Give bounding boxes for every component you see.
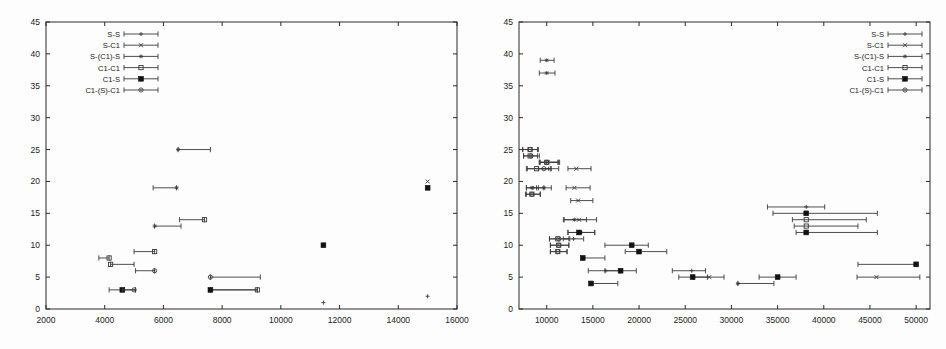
legend-item-s-s[interactable]: S-S [107,30,158,39]
series-s-c1-s [153,147,211,229]
data-point-star-marker [572,218,576,222]
y-axis: 051015202530354045 [504,17,930,314]
data-point-plus-marker [804,205,808,209]
legend-label: C1-C1 [862,64,884,73]
data-point-filled-square-marker [589,281,594,286]
y-tick-label: 25 [31,145,41,155]
y-tick-label: 40 [504,49,514,59]
data-point-star-marker [736,281,740,285]
data-point-filled-square-marker [914,262,919,267]
scatter-plot-right: 1000015000200002500030000350004000045000… [473,0,946,349]
data-point-filled-square-marker [629,243,634,248]
y-tick-label: 10 [31,240,41,250]
legend-item-s-c1-s[interactable]: S-(C1)-S [854,52,922,61]
x-tick-label: 10000 [535,315,559,325]
legend-label: C1-(S)-C1 [849,86,884,95]
x-tick-label: 8000 [213,315,232,325]
y-tick-label: 30 [31,113,41,123]
legend-item-s-c1-s[interactable]: S-(C1)-S [90,52,158,61]
legend-item-c1-s-c1[interactable]: C1-(S)-C1 [85,86,158,95]
data-point-filled-square-marker [637,249,642,254]
legend-key-plus-marker [903,32,907,36]
legend: S-SS-C1S-(C1)-SC1-C1C1-SC1-(S)-C1 [849,30,922,95]
legend-label: S-C1 [867,41,884,50]
series-s-s [321,294,429,304]
series-c1-c1 [99,217,260,292]
x-tick-label: 12000 [328,315,352,325]
y-axis: 051015202530354045 [31,17,457,314]
data-point-plus-marker [321,301,325,305]
legend-key-star-marker [903,54,907,58]
y-tick-label: 0 [35,304,40,314]
y-tick-label: 15 [504,208,514,218]
data-point-filled-square-marker [425,185,430,190]
x-tick-label: 10000 [269,315,293,325]
y-tick-label: 15 [31,208,41,218]
data-point-cross-marker [426,179,430,183]
data-layer [99,147,430,305]
legend-key-filled-square-marker [903,76,908,81]
x-tick-label: 14000 [386,315,410,325]
data-point-star-marker [545,58,549,62]
y-tick-label: 45 [31,17,41,27]
data-point-filled-square-marker [580,256,585,261]
chart-panel-right: 1000015000200002500030000350004000045000… [473,0,946,349]
data-point-filled-square-marker [804,230,809,235]
x-tick-label: 4000 [95,315,114,325]
x-tick-label: 15000 [581,315,605,325]
chart-panel-left: 2000400060008000100001200014000160000510… [0,0,473,349]
series-c1-s-c1 [523,147,569,254]
y-tick-label: 40 [31,49,41,59]
x-tick-label: 25000 [673,315,697,325]
series-c1-s-c1 [122,268,260,292]
data-point-filled-square-marker [321,243,326,248]
y-tick-label: 0 [508,304,513,314]
legend-label: S-S [871,30,884,39]
legend-item-s-s[interactable]: S-S [871,30,922,39]
data-point-star-marker [530,186,534,190]
data-point-plus-marker [571,237,575,241]
legend-item-c1-s[interactable]: C1-S [103,75,158,84]
legend-key-plus-marker [139,32,143,36]
x-tick-label: 6000 [154,315,173,325]
legend-label: C1-(S)-C1 [85,86,120,95]
legend-item-s-c1[interactable]: S-C1 [103,41,158,50]
x-tick-label: 20000 [627,315,651,325]
y-tick-label: 10 [504,240,514,250]
y-tick-label: 20 [31,176,41,186]
data-point-plus-marker [690,269,694,273]
scatter-plot-left: 2000400060008000100001200014000160000510… [0,0,473,349]
y-tick-label: 35 [504,81,514,91]
y-tick-label: 5 [35,272,40,282]
x-tick-label: 16000 [445,315,469,325]
legend-label: C1-S [867,75,884,84]
y-tick-label: 20 [504,176,514,186]
x-tick-label: 2000 [37,315,56,325]
legend-label: C1-C1 [98,64,120,73]
legend-item-c1-c1[interactable]: C1-C1 [98,64,158,73]
x-tick-label: 35000 [766,315,790,325]
figure-container: 2000400060008000100001200014000160000510… [0,0,946,349]
data-point-star-marker [542,186,546,190]
data-point-star-marker [545,71,549,75]
data-point-filled-square-marker [804,211,809,216]
x-tick-label: 30000 [720,315,744,325]
y-tick-label: 35 [31,81,41,91]
data-point-star-marker [175,186,179,190]
data-point-filled-square-marker [618,268,623,273]
legend-item-s-c1[interactable]: S-C1 [867,41,922,50]
data-point-filled-square-marker [208,287,213,292]
y-tick-label: 45 [504,17,514,27]
y-tick-label: 30 [504,113,514,123]
legend-label: S-S [107,30,120,39]
legend-item-c1-s-c1[interactable]: C1-(S)-C1 [849,86,922,95]
y-tick-label: 25 [504,145,514,155]
legend-label: S-C1 [103,41,120,50]
legend-key-star-marker [139,54,143,58]
data-point-star-marker [153,224,157,228]
legend-item-c1-c1[interactable]: C1-C1 [862,64,922,73]
data-point-filled-square-marker [577,230,582,235]
y-tick-label: 5 [508,272,513,282]
legend-item-c1-s[interactable]: C1-S [867,75,922,84]
x-tick-label: 50000 [904,315,928,325]
